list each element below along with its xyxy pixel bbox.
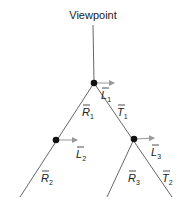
label-T2: T2 — [162, 171, 173, 186]
svg-text:L1: L1 — [101, 89, 111, 103]
ray-tree-diagram: Viewpoint L1 L2 L3 R1 T1 R2 R3 — [0, 0, 183, 208]
label-L1: L1 — [101, 88, 111, 103]
label-L2: L2 — [76, 147, 86, 162]
node-1 — [91, 80, 98, 87]
svg-text:R1: R1 — [82, 106, 94, 120]
node-2 — [53, 137, 60, 144]
svg-text:T1: T1 — [117, 106, 128, 120]
label-R2: R2 — [41, 171, 53, 186]
label-T1: T1 — [117, 105, 128, 120]
label-L3: L3 — [151, 145, 161, 160]
svg-text:R3: R3 — [128, 172, 140, 186]
svg-text:R2: R2 — [41, 172, 53, 186]
svg-text:L3: L3 — [151, 146, 161, 160]
edge-viewpoint-to-node1 — [93, 25, 94, 83]
node-3 — [131, 136, 138, 143]
edge-reflection-r3 — [107, 139, 134, 197]
viewpoint-label: Viewpoint — [69, 9, 117, 21]
label-R3: R3 — [128, 171, 140, 186]
svg-text:L2: L2 — [76, 148, 86, 162]
svg-text:T2: T2 — [162, 172, 173, 186]
label-R1: R1 — [82, 105, 94, 120]
light-arrow-3 — [135, 138, 154, 139]
